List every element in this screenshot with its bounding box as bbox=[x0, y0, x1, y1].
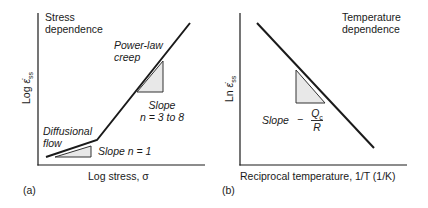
panel-a-upper-slope-label: Slope n = 3 to 8 bbox=[136, 99, 188, 123]
upper-slope-line1: Slope bbox=[136, 99, 188, 111]
panel-b-slope-triangle bbox=[296, 70, 325, 103]
panel-b-y-label: Ln ε̇ss bbox=[223, 76, 240, 102]
panel-a-upper-slope-triangle bbox=[137, 61, 163, 92]
panel-b-tag: (b) bbox=[222, 184, 235, 196]
panel-a-y-label: Log ε̇ss bbox=[20, 72, 37, 104]
diffusional-line1: Diffusional bbox=[43, 125, 92, 137]
power-law-line1: Power-law bbox=[114, 39, 163, 51]
diffusional-line2: flow bbox=[43, 137, 92, 149]
panel-b-slope-label: Slope bbox=[262, 114, 289, 126]
panel-b-slope-denominator: R bbox=[308, 121, 326, 133]
power-law-line2: creep bbox=[114, 51, 163, 63]
panel-b-title-line1: Temperature bbox=[342, 11, 401, 23]
panel-b-slope-numerator: Qc bbox=[308, 107, 326, 121]
panel-a-y-label-text: Log bbox=[20, 84, 32, 104]
strain-rate-symbol: ε̇ bbox=[20, 79, 32, 84]
panel-b-x-label: Reciprocal temperature, 1/T (1/K) bbox=[240, 170, 396, 182]
panel-a-lower-slope-label: Slope n = 1 bbox=[98, 145, 151, 157]
panel-a-title: Stress dependence bbox=[45, 11, 103, 35]
strain-rate-subscript: ss bbox=[27, 72, 34, 79]
panel-a-power-law-label: Power-law creep bbox=[114, 39, 163, 63]
panel-b-slope-minus: − bbox=[297, 113, 303, 125]
panel-a-tag: (a) bbox=[23, 184, 36, 196]
panel-b-title-line2: dependence bbox=[342, 23, 401, 35]
panel-b-y-label-text: Ln bbox=[223, 87, 235, 102]
panel-a-title-line1: Stress bbox=[45, 11, 103, 23]
upper-slope-line2: n = 3 to 8 bbox=[136, 111, 188, 123]
strain-rate-symbol-b: ε̇ bbox=[223, 83, 235, 88]
strain-rate-subscript-b: ss bbox=[230, 76, 237, 83]
panel-a-title-line2: dependence bbox=[45, 23, 103, 35]
panel-a-x-label: Log stress, σ bbox=[88, 170, 149, 182]
panel-a-diffusional-label: Diffusional flow bbox=[43, 125, 92, 149]
panel-b-title: Temperature dependence bbox=[342, 11, 401, 35]
